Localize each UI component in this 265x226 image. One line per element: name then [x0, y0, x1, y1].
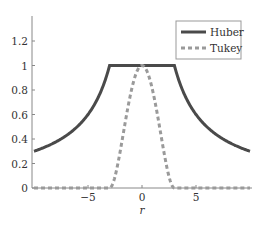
y-tick-label: 1 [21, 60, 28, 72]
x-tick-label: 5 [193, 191, 200, 203]
x-tick-label: −5 [80, 191, 95, 203]
chart-root: 00.20.40.60.811.2 −505 r Huber Tukey [0, 0, 265, 226]
y-tick-label: 1.2 [11, 35, 28, 47]
legend-huber-label: Huber [210, 26, 245, 38]
y-tick-label: 0.2 [11, 158, 28, 170]
tukey-line [34, 66, 250, 189]
x-tick-label: 0 [139, 191, 146, 203]
legend-tukey-label: Tukey [210, 42, 242, 54]
legend: Huber Tukey [176, 21, 245, 59]
series [34, 66, 250, 189]
huber-line [34, 66, 250, 152]
x-axis-label: r [139, 204, 145, 216]
y-tick-label: 0.8 [11, 84, 28, 96]
y-tick-label: 0.4 [11, 133, 28, 145]
y-tick-label: 0.6 [11, 109, 28, 121]
y-ticks: 00.20.40.60.811.2 [11, 35, 35, 194]
y-tick-label: 0 [21, 182, 28, 194]
weight-function-chart: 00.20.40.60.811.2 −505 r Huber Tukey [0, 0, 265, 226]
